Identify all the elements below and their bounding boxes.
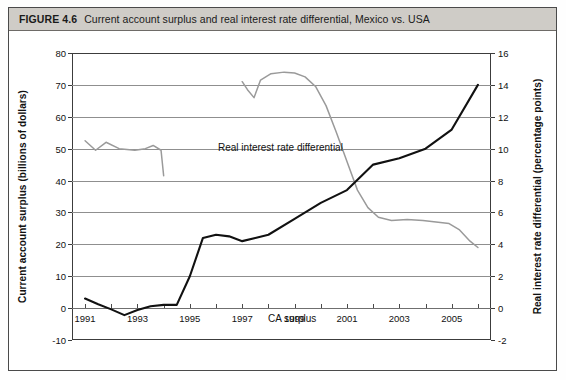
y-axis-right-tick-mark bbox=[491, 244, 495, 245]
y-axis-left-tick-label: 20 bbox=[32, 239, 66, 250]
x-axis-tick-mark bbox=[190, 304, 191, 308]
gridline bbox=[72, 212, 491, 213]
x-axis-tick-label: 1991 bbox=[75, 313, 96, 324]
y-axis-left-tick-mark bbox=[68, 340, 72, 341]
y-axis-right-tick-mark bbox=[491, 117, 495, 118]
x-axis-tick-mark bbox=[478, 304, 479, 308]
gridline bbox=[72, 308, 491, 309]
y-axis-right-tick-mark bbox=[491, 85, 495, 86]
y-axis-right-title: Real interest rate differential (percent… bbox=[530, 53, 546, 340]
x-axis-tick-mark bbox=[347, 304, 348, 308]
y-axis-left-tick-label: 50 bbox=[32, 143, 66, 154]
plot-area: -1001020304050607080 -20246810121416 199… bbox=[72, 53, 491, 340]
x-axis-tick-mark bbox=[85, 304, 86, 308]
y-axis-left-tick-label: 40 bbox=[32, 175, 66, 186]
y-axis-left-tick-mark bbox=[68, 244, 72, 245]
x-axis-tick-label: 2001 bbox=[336, 313, 357, 324]
figure-caption-text: Current account surplus and real interes… bbox=[84, 13, 430, 25]
x-axis-tick-label: 1993 bbox=[127, 313, 148, 324]
x-axis-tick-mark bbox=[426, 304, 427, 308]
y-axis-right-tick-label: 4 bbox=[498, 239, 518, 250]
x-axis-tick-mark bbox=[216, 304, 217, 308]
y-axis-left-tick-label: 0 bbox=[32, 303, 66, 314]
y-axis-left-tick-mark bbox=[68, 149, 72, 150]
y-axis-left-tick-mark bbox=[68, 85, 72, 86]
y-axis-right-tick-label: 12 bbox=[498, 111, 518, 122]
x-axis-tick-mark bbox=[399, 304, 400, 308]
y-axis-left-tick-mark bbox=[68, 181, 72, 182]
series-annotation-ca-surplus: CA surplus bbox=[268, 313, 316, 324]
y-axis-left-tick-label: -10 bbox=[32, 335, 66, 346]
y-axis-right-tick-label: 14 bbox=[498, 79, 518, 90]
gridline bbox=[72, 276, 491, 277]
gridline bbox=[72, 117, 491, 118]
x-axis-tick-mark bbox=[164, 304, 165, 308]
y-axis-left-tick-label: 70 bbox=[32, 79, 66, 90]
gridline bbox=[72, 244, 491, 245]
y-axis-left-tick-mark bbox=[68, 212, 72, 213]
x-axis-tick-mark bbox=[321, 304, 322, 308]
figure-caption-bar: FIGURE 4.6 Current account surplus and r… bbox=[9, 8, 556, 31]
y-axis-left-tick-mark bbox=[68, 276, 72, 277]
gridline bbox=[72, 181, 491, 182]
y-axis-right-tick-label: 2 bbox=[498, 271, 518, 282]
y-axis-left-title-text: Current account surplus (billions of dol… bbox=[17, 90, 28, 303]
y-axis-right-tick-label: 0 bbox=[498, 303, 518, 314]
figure-container: FIGURE 4.6 Current account surplus and r… bbox=[0, 0, 566, 380]
y-axis-right-tick-label: 10 bbox=[498, 143, 518, 154]
figure-number: FIGURE 4.6 bbox=[19, 13, 77, 25]
x-axis-tick-mark bbox=[452, 304, 453, 308]
x-axis-tick-mark bbox=[268, 304, 269, 308]
y-axis-left-tick-label: 60 bbox=[32, 111, 66, 122]
y-axis-right-tick-mark bbox=[491, 53, 495, 54]
x-axis-tick-label: 1995 bbox=[179, 313, 200, 324]
gridline bbox=[72, 85, 491, 86]
y-axis-right-tick-label: 6 bbox=[498, 207, 518, 218]
x-axis-tick-mark bbox=[137, 304, 138, 308]
y-axis-right-tick-mark bbox=[491, 308, 495, 309]
y-axis-right-tick-mark bbox=[491, 181, 495, 182]
y-axis-right-tick-label: 16 bbox=[498, 48, 518, 59]
y-axis-right-tick-mark bbox=[491, 276, 495, 277]
y-axis-right-tick-label: -2 bbox=[498, 335, 518, 346]
y-axis-right-tick-mark bbox=[491, 340, 495, 341]
y-axis-left-tick-label: 80 bbox=[32, 48, 66, 59]
y-axis-left-tick-label: 30 bbox=[32, 207, 66, 218]
x-axis-tick-label: 2005 bbox=[441, 313, 462, 324]
x-axis-tick-label: 1997 bbox=[232, 313, 253, 324]
x-axis-tick-mark bbox=[242, 304, 243, 308]
series-annotation-real-interest-rate-differential: Real interest rate differential bbox=[218, 142, 343, 153]
y-axis-right-title-text: Real interest rate differential (percent… bbox=[533, 79, 544, 315]
y-axis-right-tick-mark bbox=[491, 149, 495, 150]
x-axis-tick-mark bbox=[295, 304, 296, 308]
y-axis-left-tick-mark bbox=[68, 117, 72, 118]
plot-frame bbox=[72, 53, 491, 340]
x-axis-tick-label: 2003 bbox=[389, 313, 410, 324]
x-axis-tick-mark bbox=[111, 304, 112, 308]
y-axis-right-tick-label: 8 bbox=[498, 175, 518, 186]
y-axis-right-tick-mark bbox=[491, 212, 495, 213]
x-axis-tick-mark bbox=[373, 304, 374, 308]
y-axis-left-tick-mark bbox=[68, 53, 72, 54]
y-axis-left-title: Current account surplus (billions of dol… bbox=[14, 53, 30, 340]
y-axis-left-tick-label: 10 bbox=[32, 271, 66, 282]
y-axis-left-tick-mark bbox=[68, 308, 72, 309]
